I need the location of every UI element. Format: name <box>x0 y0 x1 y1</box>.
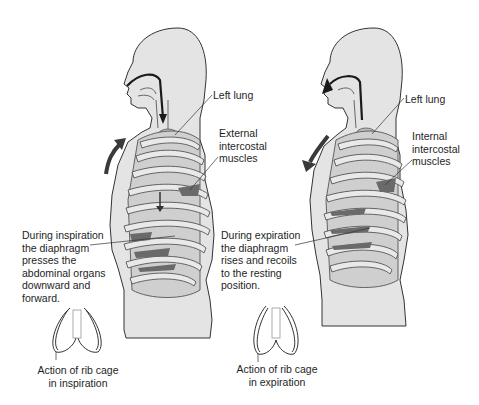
breathing-diagram: Left lung External intercostal muscles D… <box>0 0 479 405</box>
rib-cage-expiration-icon <box>254 306 298 362</box>
description-line: the diaphragm <box>221 242 300 255</box>
expiration-description: During expiration the diaphragm rises an… <box>221 229 300 292</box>
muscles-label-line: External <box>219 127 267 140</box>
expiration-rib-cage <box>324 131 406 288</box>
caption-line: in expiration <box>229 376 325 389</box>
caption-line: Action of rib cage <box>229 363 325 376</box>
description-line: position. <box>221 279 300 292</box>
muscles-label-line: intercostal <box>219 140 267 153</box>
expiration-rib-cage-caption: Action of rib cage in expiration <box>229 363 325 388</box>
inspiration-description: During inspiration the diaphragm presses… <box>22 229 105 304</box>
muscles-label-line: muscles <box>412 155 460 168</box>
inspiration-muscles-label: External intercostal muscles <box>219 127 267 165</box>
description-line: abdominal organs <box>22 267 105 280</box>
muscles-label-line: Internal <box>412 130 460 143</box>
description-line: the diaphragm <box>22 242 105 255</box>
expiration-left-lung-label: Left lung <box>405 93 445 106</box>
caption-line: in inspiration <box>30 377 126 390</box>
description-line: During inspiration <box>22 229 105 242</box>
caption-line: Action of rib cage <box>30 364 126 377</box>
expiration-muscles-label: Internal intercostal muscles <box>412 130 460 168</box>
muscles-label-line: muscles <box>219 152 267 165</box>
inspiration-left-lung-label: Left lung <box>213 89 253 102</box>
expiration-figure <box>0 0 479 405</box>
description-line: to the resting <box>221 267 300 280</box>
description-line: presses the <box>22 254 105 267</box>
description-line: forward. <box>22 292 105 305</box>
inspiration-rib-cage-caption: Action of rib cage in inspiration <box>30 364 126 389</box>
description-line: downward and <box>22 279 105 292</box>
muscles-label-line: intercostal <box>412 143 460 156</box>
description-line: During expiration <box>221 229 300 242</box>
description-line: rises and recoils <box>221 254 300 267</box>
